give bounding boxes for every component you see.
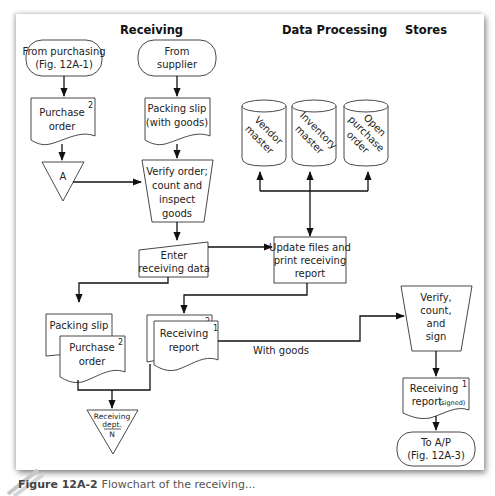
svg-text:report: report xyxy=(295,268,326,279)
svg-text:inspect: inspect xyxy=(159,194,195,205)
svg-text:supplier: supplier xyxy=(157,59,198,70)
flow-label-with-goods: With goods xyxy=(253,345,309,356)
svg-text:Packing slip: Packing slip xyxy=(148,103,207,114)
arrow-enter-to-packing-slip xyxy=(79,277,168,302)
svg-text:count,: count, xyxy=(420,305,451,316)
svg-text:Verify order;: Verify order; xyxy=(146,166,208,177)
svg-text:A: A xyxy=(60,171,67,182)
column-header-receiving: Receiving xyxy=(120,23,183,37)
svg-text:Receiving: Receiving xyxy=(410,383,458,394)
svg-text:Enter: Enter xyxy=(161,250,189,261)
flowchart-page: Receiving Data Processing Stores From pu… xyxy=(0,0,495,496)
file-open-purchase-order: Open purchase order xyxy=(338,100,395,166)
svg-text:1: 1 xyxy=(213,324,218,333)
svg-text:Update files and: Update files and xyxy=(269,242,351,253)
svg-text:2: 2 xyxy=(118,338,123,347)
offline-file-receiving-dept: Receiving dept. N xyxy=(87,410,138,454)
file-vendor-master: Vendor master xyxy=(242,100,286,166)
terminal-from-purchasing: From purchasing (Fig. 12A-1) xyxy=(22,40,105,76)
svg-text:Packing slip: Packing slip xyxy=(50,320,109,331)
svg-text:N: N xyxy=(109,430,115,439)
manual-input-enter-receiving-data: Enter receiving data xyxy=(138,242,210,277)
figure-number: Figure 12A-2 xyxy=(18,478,98,491)
svg-text:From: From xyxy=(165,46,190,57)
svg-text:print receiving: print receiving xyxy=(274,255,347,266)
svg-text:(Fig. 12A-3): (Fig. 12A-3) xyxy=(407,450,465,461)
flowchart-diagram: Receiving Data Processing Stores From pu… xyxy=(0,0,495,496)
svg-text:1: 1 xyxy=(462,380,467,389)
column-header-data-processing: Data Processing xyxy=(282,23,387,37)
terminal-from-supplier: From supplier xyxy=(138,40,216,76)
document-purchase-order-copy: Purchase order 2 xyxy=(60,336,125,383)
manual-operation-verify-count-sign: Verify, count, and sign xyxy=(401,286,472,351)
svg-text:2: 2 xyxy=(88,101,93,110)
arrow-update-to-receiving-report xyxy=(184,283,307,313)
svg-text:Receiving: Receiving xyxy=(160,328,208,339)
svg-text:dept.: dept. xyxy=(102,420,121,429)
svg-text:(signed): (signed) xyxy=(439,399,466,407)
svg-text:order: order xyxy=(49,121,77,132)
svg-text:report: report xyxy=(169,342,200,353)
svg-text:From purchasing: From purchasing xyxy=(22,46,105,57)
arrow-with-goods xyxy=(218,316,404,341)
document-receiving-report-signed: Receiving report (signed) 1 xyxy=(403,378,469,419)
svg-text:and: and xyxy=(427,318,446,329)
svg-text:sign: sign xyxy=(426,331,447,342)
document-receiving-report: 2 Receiving report 1 xyxy=(147,315,218,371)
document-packing-slip: Packing slip (with goods) xyxy=(145,98,210,145)
terminal-to-ap: To A/P (Fig. 12A-3) xyxy=(397,432,475,466)
svg-text:(Fig. 12A-1): (Fig. 12A-1) xyxy=(35,59,93,70)
file-inventory-master: Inventory master xyxy=(289,100,340,166)
manual-operation-verify-order: Verify order; count and inspect goods xyxy=(142,160,213,222)
svg-text:Purchase: Purchase xyxy=(69,342,114,353)
figure-caption: Figure 12A-2 Flowchart of the receiving.… xyxy=(18,478,255,491)
svg-text:count and: count and xyxy=(152,180,202,191)
figure-title: Flowchart of the receiving... xyxy=(102,478,256,491)
svg-text:(with goods): (with goods) xyxy=(146,117,208,128)
svg-text:Verify,: Verify, xyxy=(420,292,452,303)
document-purchase-order: Purchase order 2 xyxy=(31,98,95,145)
svg-text:order: order xyxy=(79,356,107,367)
svg-text:To A/P: To A/P xyxy=(420,437,451,448)
svg-text:goods: goods xyxy=(162,208,192,219)
process-update-files: Update files and print receiving report xyxy=(269,237,351,283)
svg-text:Purchase: Purchase xyxy=(39,107,84,118)
column-header-stores: Stores xyxy=(405,23,447,37)
svg-text:receiving data: receiving data xyxy=(138,263,210,274)
